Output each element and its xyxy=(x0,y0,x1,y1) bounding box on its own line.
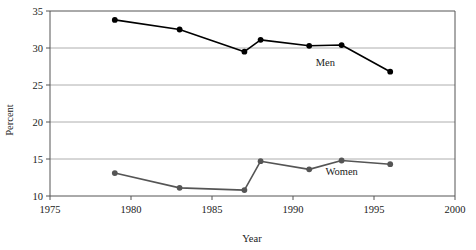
x-tick-label: 2000 xyxy=(445,204,466,215)
y-tick-label: 30 xyxy=(33,43,44,54)
data-point-women xyxy=(112,170,118,176)
data-point-men xyxy=(339,42,345,48)
line-chart: 101520253035 197519801985199019952000 Me… xyxy=(0,0,476,250)
chart-canvas: 101520253035 197519801985199019952000 Me… xyxy=(0,0,476,250)
data-point-men xyxy=(258,37,264,43)
data-point-men xyxy=(112,17,118,23)
data-point-men xyxy=(177,27,183,33)
y-tick-label: 10 xyxy=(33,191,44,202)
data-point-women xyxy=(387,161,393,167)
x-tick-label: 1975 xyxy=(40,204,61,215)
chart-background xyxy=(0,0,476,250)
series-label-women: Women xyxy=(325,166,358,177)
x-tick-label: 1990 xyxy=(283,204,304,215)
data-point-women xyxy=(306,166,312,172)
series-label-men: Men xyxy=(316,57,336,68)
y-tick-label: 35 xyxy=(33,6,44,17)
y-axis-title: Percent xyxy=(4,104,15,136)
data-point-men xyxy=(306,43,312,49)
data-point-women xyxy=(242,187,248,193)
data-point-men xyxy=(387,69,393,75)
y-tick-label: 15 xyxy=(33,154,44,165)
data-point-men xyxy=(242,49,248,55)
data-point-women xyxy=(177,185,183,191)
y-tick-label: 25 xyxy=(33,80,44,91)
data-point-women xyxy=(339,158,345,164)
y-tick-label: 20 xyxy=(33,117,44,128)
x-axis-title: Year xyxy=(242,233,262,244)
x-tick-label: 1980 xyxy=(121,204,142,215)
x-tick-label: 1985 xyxy=(202,204,223,215)
data-point-women xyxy=(258,158,264,164)
x-tick-label: 1995 xyxy=(364,204,385,215)
